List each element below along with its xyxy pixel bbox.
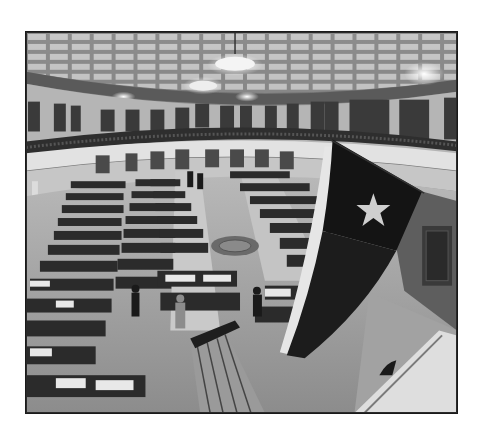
floor-seal <box>211 236 259 256</box>
chamber-photograph: Black-and-white wide-angle photograph of… <box>25 31 458 414</box>
chamber-scene <box>26 32 457 413</box>
